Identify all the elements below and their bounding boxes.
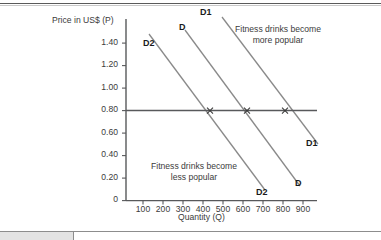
- y-tick-label-080: 0.80: [88, 105, 118, 114]
- caption-number-cell: [0, 232, 73, 240]
- x-tick-label-400: 400: [193, 205, 213, 214]
- curve-label-d-top: D: [179, 23, 186, 32]
- y-axis-title: Price in US$ (P): [52, 16, 114, 25]
- y-tick-label-020: 0.20: [88, 173, 118, 182]
- curve-label-d2-top: D2: [143, 39, 155, 48]
- shift-left-annotation-line1: Fitness drinks become: [138, 161, 250, 172]
- figure-caption-row: [0, 231, 381, 240]
- shift-left-annotation: Fitness drinks become less popular: [138, 161, 250, 182]
- y-tick-label-060: 0.60: [88, 128, 118, 137]
- figure-container: Price in US$ (P) Quantity (Q) 1.40 1.20 …: [0, 0, 381, 240]
- shift-left-annotation-line2: less popular: [138, 172, 250, 183]
- x-tick-label-300: 300: [173, 205, 193, 214]
- y-tick-label-0: 0: [88, 195, 118, 204]
- y-tick-label-140: 1.40: [88, 38, 118, 47]
- shift-right-annotation-line2: more popular: [222, 35, 334, 46]
- caption-cell-divider: [73, 232, 74, 240]
- x-tick-label-600: 600: [233, 205, 253, 214]
- x-tick-label-900: 900: [293, 205, 313, 214]
- y-tick-label-100: 1.00: [88, 83, 118, 92]
- curve-label-d2-bottom: D2: [256, 188, 268, 197]
- y-tick-label-120: 1.20: [88, 60, 118, 69]
- shift-right-annotation-line1: Fitness drinks become: [222, 24, 334, 35]
- x-tick-label-500: 500: [213, 205, 233, 214]
- curve-label-d-bottom: D: [295, 179, 302, 188]
- x-tick-label-700: 700: [253, 205, 273, 214]
- x-tick-label-100: 100: [133, 205, 153, 214]
- x-tick-label-800: 800: [273, 205, 293, 214]
- curve-label-d1-top: D1: [200, 8, 212, 17]
- x-tick-label-200: 200: [153, 205, 173, 214]
- shift-right-annotation: Fitness drinks become more popular: [222, 24, 334, 45]
- x-axis-title: Quantity (Q): [178, 213, 225, 222]
- curve-label-d1-bottom: D1: [306, 139, 318, 148]
- y-tick-label-040: 0.40: [88, 150, 118, 159]
